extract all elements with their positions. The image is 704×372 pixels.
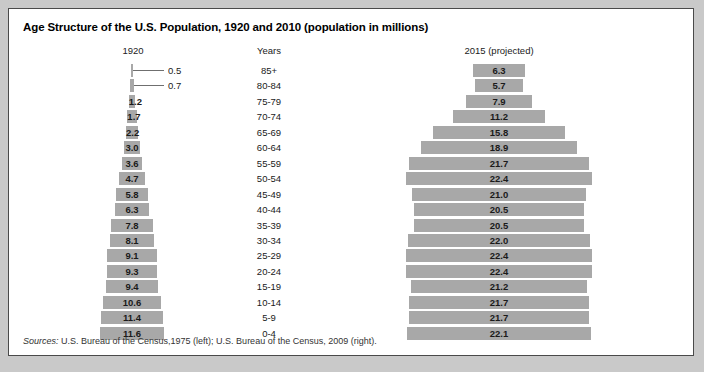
bar-value-1920: 1.2: [129, 95, 136, 108]
age-group-label: 15-19: [237, 280, 301, 293]
age-group-label: 80-84: [237, 79, 301, 92]
bar-value-2015: 21.7: [409, 311, 589, 324]
sources-label: Sources:: [23, 336, 59, 346]
bar-value-2015: 18.9: [421, 141, 578, 154]
bar-value-1920: 0.5: [168, 64, 181, 77]
pyramid-row: 3.655-5921.7: [9, 156, 693, 171]
bar-value-1920: 3.0: [124, 141, 140, 154]
age-group-label: 75-79: [237, 95, 301, 108]
bar-value-2015: 7.9: [466, 95, 532, 108]
bar-value-1920: 5.8: [116, 188, 148, 201]
pyramid-row: 1.275-797.9: [9, 94, 693, 109]
pyramid-row: 2.265-6915.8: [9, 125, 693, 140]
age-group-label: 10-14: [237, 296, 301, 309]
age-group-label: 35-39: [237, 219, 301, 232]
bar-value-1920: 6.3: [115, 203, 149, 216]
pyramid-row: 11.45-921.7: [9, 310, 693, 325]
bar-value-2015: 20.5: [414, 203, 584, 216]
bar-value-2015: 15.8: [433, 126, 564, 139]
sources-note: Sources: U.S. Bureau of the Census,1975 …: [23, 336, 377, 346]
age-group-label: 25-29: [237, 249, 301, 262]
pyramid-row: 1.770-7411.2: [9, 109, 693, 124]
bar-value-1920: 9.3: [107, 265, 158, 278]
pyramid-row: 9.320-2422.4: [9, 264, 693, 279]
pyramid-row: 7.835-3920.5: [9, 218, 693, 233]
bar-value-2015: 21.2: [411, 280, 587, 293]
pyramid-row: 0.780-845.7: [9, 78, 693, 93]
pyramid-row: 10.610-1421.7: [9, 295, 693, 310]
bar-value-2015: 20.5: [414, 219, 584, 232]
bar-value-1920: 7.8: [111, 219, 154, 232]
age-group-label: 45-49: [237, 188, 301, 201]
bar-value-2015: 21.0: [412, 188, 586, 201]
pyramid-row: 8.130-3422.0: [9, 233, 693, 248]
bar-value-2015: 21.7: [409, 157, 589, 170]
age-group-label: 65-69: [237, 126, 301, 139]
bar-value-1920: 10.6: [103, 296, 161, 309]
bar-value-2015: 22.0: [408, 234, 591, 247]
pyramid-row: 5.845-4921.0: [9, 187, 693, 202]
bar-value-1920: 11.4: [101, 311, 163, 324]
bar-value-2015: 22.4: [406, 249, 592, 262]
bar-value-1920: 9.4: [106, 280, 157, 293]
bar-value-2015: 11.2: [453, 110, 546, 123]
age-group-label: 85+: [237, 64, 301, 77]
bar-value-1920: 4.7: [119, 172, 145, 185]
column-heading-years: Years: [237, 45, 301, 56]
bar-value-2015: 6.3: [473, 64, 525, 77]
bar-value-2015: 22.4: [406, 172, 592, 185]
pyramid-row: 6.340-4420.5: [9, 202, 693, 217]
bar-value-2015: 22.1: [407, 327, 590, 340]
age-group-label: 60-64: [237, 141, 301, 154]
column-heading-1920: 1920: [101, 45, 165, 56]
sources-text: U.S. Bureau of the Census,1975 (left); U…: [59, 336, 377, 346]
bar-value-1920: 3.6: [122, 157, 142, 170]
column-heading-2015: 2015 (projected): [429, 45, 569, 56]
bar-value-1920: 1.7: [127, 110, 136, 123]
population-pyramid-plot: 0.585+6.30.780-845.71.275-797.91.770-741…: [9, 63, 693, 333]
age-group-label: 20-24: [237, 265, 301, 278]
age-group-label: 70-74: [237, 110, 301, 123]
bar-value-1920: 2.2: [126, 126, 138, 139]
pyramid-row: 4.750-5422.4: [9, 171, 693, 186]
age-group-label: 30-34: [237, 234, 301, 247]
page-title: Age Structure of the U.S. Population, 19…: [23, 21, 428, 33]
bar-value-2015: 21.7: [409, 296, 589, 309]
bar-value-1920: 8.1: [110, 234, 154, 247]
age-group-label: 50-54: [237, 172, 301, 185]
age-group-label: 55-59: [237, 157, 301, 170]
bar-value-2015: 5.7: [475, 79, 522, 92]
age-group-label: 5-9: [237, 311, 301, 324]
bar-value-1920: 9.1: [107, 249, 157, 262]
pyramid-row: 9.125-2922.4: [9, 248, 693, 263]
age-group-label: 40-44: [237, 203, 301, 216]
figure-panel: Age Structure of the U.S. Population, 19…: [8, 8, 694, 356]
pyramid-row: 3.060-6418.9: [9, 140, 693, 155]
leader-line: [133, 70, 164, 71]
pyramid-row: 0.585+6.3: [9, 63, 693, 78]
bar-value-1920: 0.7: [168, 79, 181, 92]
bar-value-2015: 22.4: [406, 265, 592, 278]
pyramid-row: 9.415-1921.2: [9, 279, 693, 294]
leader-line: [134, 85, 164, 86]
